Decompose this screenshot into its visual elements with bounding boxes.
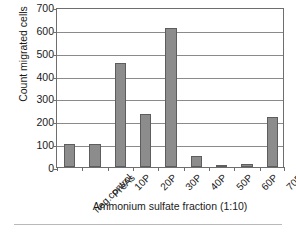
bottom-rule xyxy=(14,224,282,225)
x-axis-tick-mark xyxy=(209,167,210,171)
bar xyxy=(89,144,101,167)
y-axis-tick-mark xyxy=(53,55,57,56)
bar xyxy=(115,63,127,167)
x-axis-tick-label: 40P xyxy=(209,172,229,192)
y-axis-tick-mark xyxy=(53,146,57,147)
x-axis-title: Ammonium sulfate fraction (1:10) xyxy=(56,200,284,212)
x-axis-tick-label: 20P xyxy=(158,172,178,192)
y-axis-tick-label: 100 xyxy=(16,139,54,151)
y-axis-tick-mark xyxy=(53,100,57,101)
x-axis-tick-mark xyxy=(108,167,109,171)
bar xyxy=(241,164,253,167)
y-axis-tick-label: 200 xyxy=(16,116,54,128)
y-axis-tick-mark xyxy=(53,78,57,79)
y-axis-tick-label: 700 xyxy=(16,2,54,14)
x-axis-tick-label: 60P xyxy=(259,172,279,192)
x-axis-tick-mark xyxy=(133,167,134,171)
x-axis-tick-label: 70P xyxy=(285,172,296,192)
x-axis-tick-mark xyxy=(184,167,185,171)
y-axis-tick-mark xyxy=(53,9,57,10)
x-axis-tick-mark xyxy=(284,167,285,171)
x-axis-tick-mark xyxy=(57,167,58,171)
plot-area xyxy=(56,8,284,168)
y-axis-tick-label: 600 xyxy=(16,25,54,37)
y-axis-tick-mark xyxy=(53,123,57,124)
y-axis-tick-label: 500 xyxy=(16,48,54,60)
bar xyxy=(267,117,279,167)
x-axis-tick-mark xyxy=(260,167,261,171)
bar xyxy=(191,156,203,167)
x-axis-tick-label: 50P xyxy=(234,172,254,192)
x-axis-tick-mark xyxy=(158,167,159,171)
y-axis-tick-label: 400 xyxy=(16,71,54,83)
y-axis-tick-label: 0 xyxy=(16,162,54,174)
y-axis-tick-labels: 0100200300400500600700 xyxy=(16,8,54,168)
bar xyxy=(64,144,76,167)
x-axis-tick-mark xyxy=(234,167,235,171)
bar xyxy=(216,165,228,167)
y-axis-tick-mark xyxy=(53,32,57,33)
x-axis-tick-label: 10P xyxy=(133,172,153,192)
chart-figure: Count migrated cells 0100200300400500600… xyxy=(0,0,296,236)
bar-series xyxy=(57,9,283,167)
bar xyxy=(165,28,177,167)
x-axis-tick-label: 30P xyxy=(183,172,203,192)
x-axis-tick-mark xyxy=(82,167,83,171)
y-axis-tick-label: 300 xyxy=(16,93,54,105)
bar xyxy=(140,114,152,167)
